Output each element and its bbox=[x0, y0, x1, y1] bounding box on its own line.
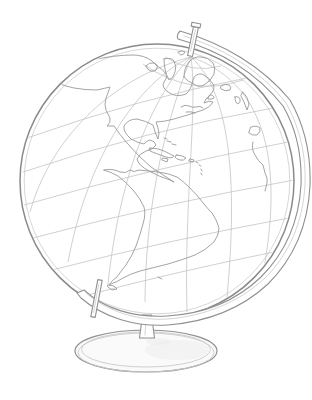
globe-illustration: Black-and-white outline illustration of … bbox=[0, 0, 312, 400]
globe-svg: Line drawing of a desk globe on a stand bbox=[0, 0, 312, 400]
stem-shadow bbox=[146, 338, 170, 345]
globe-sphere bbox=[20, 44, 294, 318]
globe-outline bbox=[20, 44, 294, 318]
north-pin-cap bbox=[191, 22, 201, 28]
